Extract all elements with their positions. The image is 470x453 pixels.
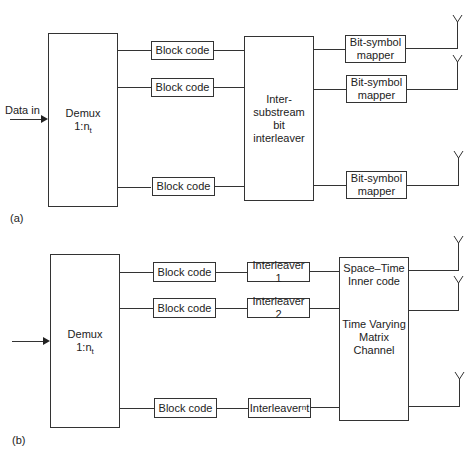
connector [406,48,458,49]
antenna-stem [459,379,460,407]
block-code-1: Block code [151,41,214,60]
connector [117,187,151,188]
interleaver-label-line: Inter- [266,93,292,106]
interleaver-nt: Interleavern t [248,398,311,418]
connector [119,308,153,309]
demux-block: Demux 1:nt [50,254,120,428]
interleaver-suffix: t [306,402,309,415]
connector [314,89,346,90]
panel-label-b: (b) [12,434,25,447]
antenna-stem [458,158,459,186]
interleaver-label-line: bit [273,119,285,132]
demux-label: Demux [68,328,103,341]
connector [310,407,340,408]
mapper-label: mapper [358,89,395,102]
block-code-3: Block code [154,398,217,418]
input-line [12,341,44,342]
block-code-3: Block code [152,177,215,196]
block-code-2: Block code [153,298,216,318]
bit-symbol-mapper-3: Bit-symbol mapper [346,171,407,199]
mapper-label: Bit-symbol [350,36,401,49]
connector [309,271,339,272]
connector [408,270,459,271]
connector [407,89,458,90]
antenna-icon [454,151,463,159]
interleaver-2: Interleaver 2 [247,298,310,318]
inner-code-label: Inner code [340,275,408,288]
interleaver-label-line: interleaver [253,132,304,145]
bit-symbol-mapper-2: Bit-symbol mapper [346,75,407,103]
channel-label: Time Varying [340,318,408,331]
demux-ratio: 1:nt [76,341,94,354]
panel-label-a: (a) [10,212,23,225]
space-time-channel-block: Space–Time Inner code Time Varying Matri… [339,257,409,421]
connector [313,49,345,50]
antenna-stem [458,283,459,311]
connector [213,87,244,88]
bit-symbol-mapper-1: Bit-symbol mapper [345,35,406,63]
antenna-stem [457,62,458,90]
connector [216,408,248,409]
antenna-stem [457,22,458,49]
arrow-head-icon [41,115,48,123]
interleaver-1: Interleaver 1 [247,262,310,282]
antenna-icon [455,372,464,380]
input-line [10,119,42,120]
connector [213,50,244,51]
antenna-icon [454,276,463,284]
interleaver-label: Interleaver [250,402,302,415]
connector [117,50,151,51]
connector [314,185,346,186]
mapper-label: mapper [357,49,394,62]
demux-block: Demux 1:nt [48,33,118,207]
demux-label: Demux [66,107,101,120]
connector [409,406,460,407]
space-time-label: Space–Time [340,262,408,275]
connector [215,308,247,309]
connector [117,87,151,88]
channel-label: Channel [340,344,408,357]
antenna-icon [454,236,463,244]
mapper-label: mapper [358,185,395,198]
connector [120,408,154,409]
mapper-label: Bit-symbol [351,76,402,89]
connector [214,186,245,187]
connector [215,272,247,273]
antenna-icon [453,15,462,23]
demux-ratio: 1:nt [74,120,92,133]
block-code-1: Block code [153,262,216,282]
block-code-2: Block code [151,78,214,97]
antenna-icon [453,55,462,63]
channel-label: Matrix [340,331,408,344]
connector [119,272,153,273]
arrow-head-icon [43,337,50,345]
connector [407,185,459,186]
mapper-label: Bit-symbol [351,172,402,185]
data-in-label: Data in [5,104,40,117]
connector [309,308,339,309]
antenna-stem [458,243,459,271]
connector [408,310,459,311]
inter-substream-interleaver: Inter- substream bit interleaver [244,36,314,201]
interleaver-label-line: substream [253,106,304,119]
